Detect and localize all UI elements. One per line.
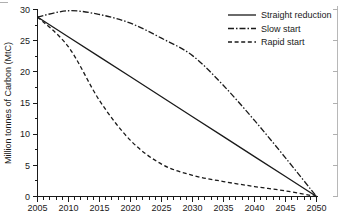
y-tick-label: 10 [20,129,30,139]
legend-label: Straight reduction [261,10,332,20]
x-tick-label: 2025 [151,203,171,213]
x-tick-label: 2050 [306,203,326,213]
y-tick-label: 5 [25,161,30,171]
line-chart: 051015202530 200520102015202020252030203… [0,0,348,221]
y-tick-label: 20 [20,67,30,77]
y-axis-title: Million tonnes of Carbon (MtC) [3,42,13,164]
x-tick-label: 2015 [89,203,109,213]
x-tick-label: 2035 [213,203,233,213]
y-tick-label: 30 [20,5,30,15]
x-tick-label: 2045 [275,203,295,213]
legend-label: Slow start [261,24,301,34]
y-tick-label: 0 [25,192,30,202]
x-tick-label: 2030 [182,203,202,213]
y-tick-label: 25 [20,36,30,46]
chart-container: 051015202530 200520102015202020252030203… [0,0,348,221]
y-tick-label: 15 [20,98,30,108]
legend-label: Rapid start [261,37,305,47]
x-tick-label: 2010 [58,203,78,213]
x-tick-label: 2020 [120,203,140,213]
x-tick-label: 2040 [244,203,264,213]
x-tick-label: 2005 [27,203,47,213]
